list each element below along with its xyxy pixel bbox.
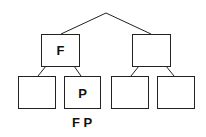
node-rr [158, 77, 195, 109]
edge-root-right [106, 13, 151, 34]
tree-diagram: F P F P [0, 0, 206, 137]
edge-right-rl [131, 66, 139, 76]
edge-root-left [61, 13, 106, 34]
edge-left-ll [38, 66, 46, 76]
caption: F P [72, 115, 93, 130]
node-rl [112, 77, 149, 109]
node-ll [19, 77, 56, 109]
edge-right-rr [166, 66, 174, 76]
edge-left-lr [74, 66, 81, 76]
node-left-label: F [57, 43, 65, 58]
node-right [133, 35, 171, 67]
node-lr-label: P [78, 86, 87, 101]
